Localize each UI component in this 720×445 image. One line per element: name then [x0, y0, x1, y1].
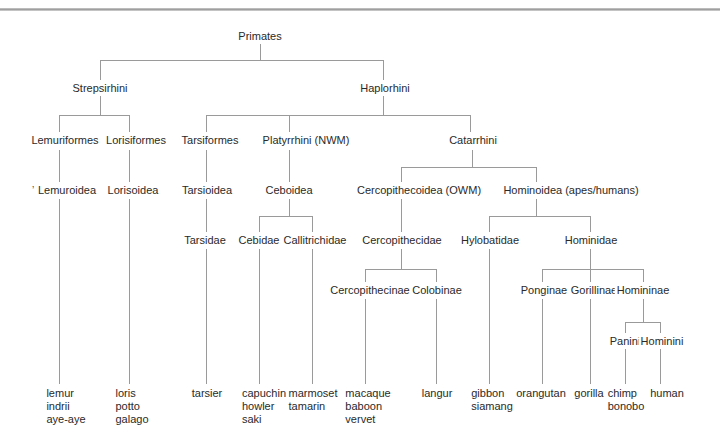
node-ponginae: Ponginae [519, 284, 570, 297]
leaf-ponginae: orangutan [516, 387, 566, 400]
node-callitrichidae: Callitrichidae [282, 234, 349, 247]
node-cercopithecoidea: Cercopithecoidea (OWM) [355, 184, 483, 197]
tree-connectors [0, 0, 720, 445]
node-panini: Panini [608, 335, 643, 348]
node-cebidae: Cebidae [237, 234, 282, 247]
node-colobinae: Colobinae [410, 284, 464, 297]
node-lorisoidea: Lorisoidea [106, 184, 161, 197]
node-catarrhini: Catarrhini [447, 134, 499, 147]
stray-mark: ’ [32, 185, 34, 196]
leaf-cebidae: capuchin howler saki [242, 387, 286, 426]
node-strepsirhini: Strepsirhini [70, 82, 129, 95]
node-cercopithecinae: Cercopithecinae [328, 284, 412, 297]
node-gorillinae: Gorillinae [569, 284, 619, 297]
leaf-lorisoidea: loris potto galago [115, 387, 148, 426]
leaf-tarsidae: tarsier [192, 387, 223, 400]
node-hylobatidae: Hylobatidae [459, 234, 521, 247]
node-lemuriformes: Lemuriformes [29, 134, 100, 147]
node-hominoidea: Hominoidea (apes/humans) [501, 184, 640, 197]
node-cercopithecidae: Cercopithecidae [360, 234, 444, 247]
node-homininae: Homininae [615, 284, 672, 297]
leaf-callitrichidae: marmoset tamarin [289, 387, 338, 413]
node-hominidae: Hominidae [563, 234, 620, 247]
node-haplorhini: Haplorhini [358, 82, 412, 95]
node-ceboidea: Ceboidea [263, 184, 314, 197]
node-lorisiformes: Lorisiformes [104, 134, 168, 147]
node-tarsioidea: Tarsioidea [180, 184, 234, 197]
node-lemuroidea: Lemuroidea [36, 184, 98, 197]
leaf-hominini: human [650, 387, 684, 400]
leaf-cercopithecinae: macaque baboon vervet [345, 387, 390, 426]
leaf-colobinae: langur [422, 387, 453, 400]
leaf-lemuroidea: lemur indrii aye-aye [46, 387, 85, 426]
node-tarsidae: Tarsidae [182, 234, 228, 247]
node-hominini: Hominini [639, 335, 686, 348]
leaf-gorillinae: gorilla [574, 387, 603, 400]
node-tarsiformes: Tarsiformes [180, 134, 241, 147]
leaf-hylobatidae: gibbon siamang [471, 387, 513, 413]
node-platyrrhini: Platyrrhini (NWM) [261, 134, 352, 147]
leaf-panini: chimp bonobo [608, 387, 645, 413]
node-primates: Primates [236, 30, 283, 43]
